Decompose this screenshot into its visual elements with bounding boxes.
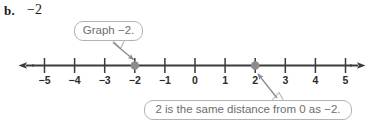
callout-distance-text: 2 is the same distance from 0 as −2.	[155, 104, 340, 116]
tick-label: −3	[99, 74, 111, 86]
callout-distance: 2 is the same distance from 0 as −2.	[144, 100, 352, 120]
distance-callout-arrow	[258, 74, 277, 98]
callout-tails	[113, 41, 284, 101]
tick-label: 4	[312, 74, 318, 86]
callout-graph-text: Graph −2.	[83, 25, 134, 37]
tick-label: 2	[252, 74, 258, 86]
tick-label: 1	[222, 74, 228, 86]
tick-label: −5	[39, 74, 51, 86]
tick-label: 3	[282, 74, 288, 86]
point-positive-two	[251, 61, 260, 70]
tick-label: −2	[129, 74, 141, 86]
tick-labels: −5 −4 −3 −2 −1 0 1 2 3 4 5	[39, 74, 349, 86]
tick-label: 0	[192, 74, 198, 86]
tick-label: 5	[343, 74, 349, 86]
tick-label: −4	[69, 74, 81, 86]
tail-seam-cover	[114, 41, 283, 101]
callout-graph: Graph −2.	[74, 21, 143, 41]
graph-callout-arrow	[113, 43, 134, 60]
number-line-figure: b. −2	[0, 0, 369, 125]
tick-label: −1	[159, 74, 171, 86]
point-negative-two	[131, 61, 140, 70]
